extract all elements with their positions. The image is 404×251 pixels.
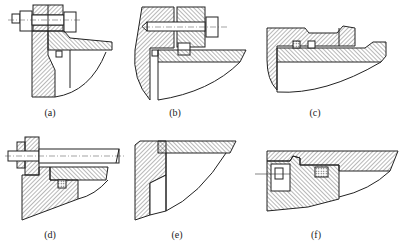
panel-e: (e) (130, 125, 250, 251)
caption-a: (a) (35, 107, 65, 118)
caption-c: (c) (300, 107, 330, 118)
caption-e: (e) (162, 229, 192, 240)
panel-a: (a) (0, 0, 130, 125)
panel-d: (d) (0, 125, 130, 251)
drawing-c (265, 0, 404, 125)
caption-f: (f) (301, 229, 331, 240)
caption-b: (b) (160, 107, 190, 118)
drawing-a (0, 0, 130, 125)
drawing-d (0, 125, 130, 251)
panel-c: (c) (265, 0, 404, 125)
caption-d: (d) (35, 229, 65, 240)
drawing-b (130, 0, 265, 125)
panel-b: (b) (130, 0, 265, 125)
panel-f: (f) (250, 125, 404, 251)
